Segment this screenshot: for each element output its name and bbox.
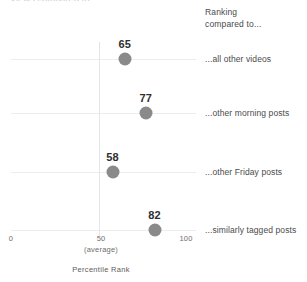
x-axis-tick-100: 100 [179, 234, 192, 243]
category-label: ...all other videos [205, 54, 271, 64]
legend-heading: Ranking compared to... [205, 7, 261, 30]
legend-heading-line-2: compared to... [205, 19, 261, 29]
data-point-value: 82 [148, 209, 161, 221]
category-label: ...other Friday posts [205, 167, 282, 177]
category-legend-column: Ranking compared to... ...all other vide… [205, 0, 307, 282]
category-label: ...other morning posts [205, 108, 289, 118]
chart-plot-area: 65 77 58 82 0 50 100 (average) Percentil… [0, 0, 200, 282]
x-axis-tick-50: 50 [97, 234, 106, 243]
x-axis-average-note: (average) [84, 245, 118, 254]
data-point-value: 65 [118, 38, 131, 50]
average-reference-line [99, 42, 100, 236]
gridline-row-2 [11, 113, 196, 114]
x-axis-tick-0: 0 [9, 234, 13, 243]
category-label: ...similarly tagged posts [205, 225, 296, 235]
data-point-dot[interactable] [139, 107, 152, 120]
legend-heading-line-1: Ranking [205, 7, 237, 17]
data-point-value: 77 [139, 92, 152, 104]
gridline-row-3 [11, 172, 196, 173]
gridline-row-1 [11, 59, 196, 60]
gridline-row-4 [11, 230, 196, 231]
x-axis-title: Percentile Rank [72, 265, 129, 274]
data-point-dot[interactable] [118, 53, 131, 66]
data-point-dot[interactable] [106, 166, 119, 179]
data-point-value: 58 [106, 151, 119, 163]
data-point-dot[interactable] [148, 224, 161, 237]
